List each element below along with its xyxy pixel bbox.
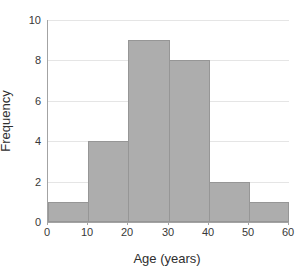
x-tick-mark-20: [127, 222, 128, 225]
x-tick-label-0: 0: [44, 227, 50, 238]
y-tick-label-0: 0: [0, 217, 41, 228]
y-tick-label-8: 8: [0, 55, 41, 66]
x-tick-label-30: 30: [162, 227, 174, 238]
x-tick-label-50: 50: [242, 227, 254, 238]
x-tick-mark-50: [248, 222, 249, 225]
x-tick-mark-10: [87, 222, 88, 225]
histogram-bar-50-60: [249, 202, 289, 222]
histogram-bar-10-20: [88, 141, 129, 222]
x-tick-label-10: 10: [81, 227, 93, 238]
x-tick-label-60: 60: [282, 227, 294, 238]
x-tick-label-20: 20: [121, 227, 133, 238]
histogram-bar-30-40: [169, 60, 210, 222]
y-tick-label-10: 10: [0, 15, 41, 26]
x-tick-label-40: 40: [202, 227, 214, 238]
x-tick-mark-40: [208, 222, 209, 225]
plot-area: [47, 20, 289, 223]
x-tick-mark-30: [168, 222, 169, 225]
y-axis-tick-labels: 0246810: [0, 0, 41, 277]
histogram-bar-0-10: [48, 202, 89, 222]
x-tick-mark-0: [47, 222, 48, 225]
gridline-y-10: [48, 20, 289, 21]
x-axis-title: Age (years): [133, 251, 200, 266]
histogram-bar-20-30: [128, 40, 170, 222]
y-tick-label-6: 6: [0, 96, 41, 107]
histogram-bar-40-50: [209, 182, 250, 222]
y-tick-label-4: 4: [0, 136, 41, 147]
histogram-figure: Frequency 0246810 0102030405060 Age (yea…: [0, 0, 305, 277]
y-tick-label-2: 2: [0, 177, 41, 188]
x-tick-mark-60: [288, 222, 289, 225]
